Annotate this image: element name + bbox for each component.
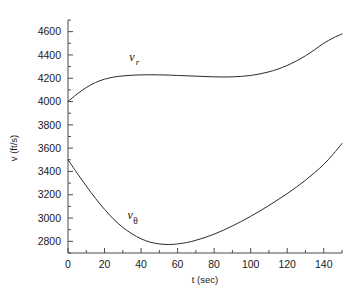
y-tick-label: 3600 xyxy=(38,142,62,154)
y-axis-title: v (ft/s) xyxy=(8,135,19,161)
x-tick-label: 140 xyxy=(315,258,333,270)
x-tick-label: 100 xyxy=(242,258,260,270)
x-axis-title: t (sec) xyxy=(192,274,218,285)
chart-figure: 2800300032003400360038004000420044004600… xyxy=(0,0,360,293)
y-tick-label: 4000 xyxy=(38,95,62,107)
velocity-vs-time-chart: 2800300032003400360038004000420044004600… xyxy=(0,0,360,293)
curve-label-v-r-subscript: r xyxy=(136,57,140,67)
x-tick-label: 0 xyxy=(65,258,71,270)
y-tick-label: 4600 xyxy=(38,25,62,37)
y-tick-label: 3400 xyxy=(38,165,62,177)
y-tick-label: 4200 xyxy=(38,72,62,84)
x-tick-label: 40 xyxy=(135,258,147,270)
x-tick-label: 80 xyxy=(208,258,220,270)
x-tick-label: 20 xyxy=(99,258,111,270)
x-tick-label: 120 xyxy=(278,258,296,270)
x-tick-label: 60 xyxy=(172,258,184,270)
y-tick-label: 2800 xyxy=(38,235,62,247)
y-tick-label: 3200 xyxy=(38,188,62,200)
curve-label-v-theta-subscript: θ xyxy=(133,216,138,226)
curve-label-v-r-symbol: v xyxy=(129,50,135,64)
y-tick-label: 3800 xyxy=(38,119,62,131)
y-tick-label: 3000 xyxy=(38,212,62,224)
y-tick-label: 4400 xyxy=(38,49,62,61)
